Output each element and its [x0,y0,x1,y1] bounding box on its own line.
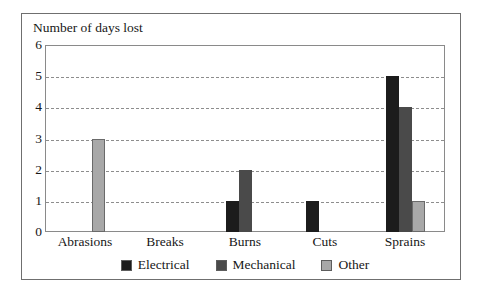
x-axis-tick-label: Breaks [125,234,205,250]
gridline [46,140,444,141]
legend-entry-electrical[interactable]: Electrical [121,258,190,272]
x-axis-tick-label: Sprains [365,234,445,250]
legend-label: Other [338,258,369,272]
x-axis-tick-label: Burns [205,234,285,250]
legend-label: Mechanical [233,258,296,272]
gridline [46,108,444,109]
x-axis: AbrasionsBreaksBurnsCutsSprains [45,234,445,254]
y-axis-tick-label: 5 [22,69,42,83]
legend-label: Electrical [138,258,190,272]
chart-title: Number of days lost [33,20,143,36]
chart-figure: Number of days lost 0123456 AbrasionsBre… [0,0,479,296]
gridline [46,77,444,78]
plot-area [45,45,445,232]
y-axis-tick-label: 3 [22,132,42,146]
y-axis-tick-label: 2 [22,163,42,177]
legend-swatch-icon [121,260,132,271]
x-axis-tick-label: Cuts [285,234,365,250]
legend-entry-other[interactable]: Other [321,258,369,272]
y-axis-tick-label: 1 [22,194,42,208]
legend-entry-mechanical[interactable]: Mechanical [216,258,296,272]
chart-legend: ElectricalMechanicalOther [45,256,445,274]
y-axis-tick-label: 4 [22,100,42,114]
gridline [46,202,444,203]
x-axis-tick-label: Abrasions [45,234,125,250]
gridline [46,171,444,172]
legend-swatch-icon [216,260,227,271]
legend-swatch-icon [321,260,332,271]
y-axis-tick-label: 0 [22,225,42,239]
y-axis-tick-label: 6 [22,38,42,52]
y-axis: 0123456 [18,45,42,232]
